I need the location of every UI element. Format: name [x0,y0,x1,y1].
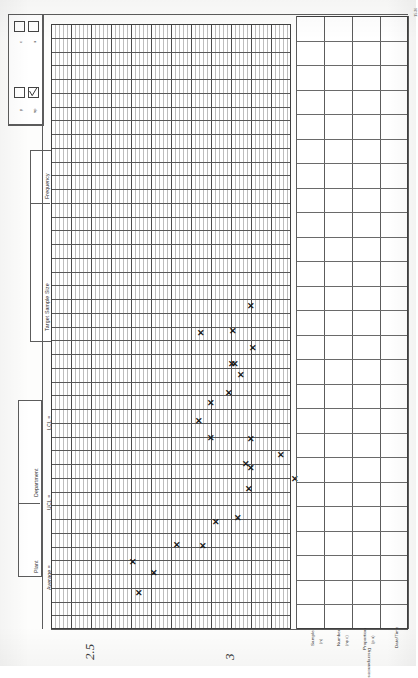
grid-hline [51,285,291,286]
grid-hline [51,230,291,231]
table-col-divider [408,16,409,629]
data-point-marker [206,399,215,408]
data-point-marker [211,518,220,527]
table-row-divider [296,65,408,66]
data-point-marker [128,558,137,567]
checkbox-label-p: p [18,109,23,111]
grid-hline [51,602,291,603]
grid-hline [51,505,291,506]
data-point-marker [172,541,181,550]
grid-hline [51,93,291,94]
table-row-divider [296,261,408,262]
data-point-marker [194,417,203,426]
grid-hline [51,162,291,163]
table-row-divider [296,482,408,483]
data-point-marker [224,389,233,398]
table-row-divider [296,114,408,115]
row-group-label-discrepancies: Discrepancies [367,648,372,678]
grid-hline [51,450,291,451]
checkbox-u[interactable] [28,21,39,32]
grid-hline [51,464,291,465]
data-point-marker [149,569,158,578]
grid-hline [51,120,291,121]
grid-hline [51,615,291,616]
grid-hline [51,368,291,369]
table-row-divider [296,16,408,17]
data-point-marker [206,434,215,443]
checkbox-np[interactable] [28,87,39,98]
grid-hline [51,299,291,300]
label-department: Department [33,468,39,497]
data-point-marker [230,360,239,369]
row-header-sample: Sample [310,630,315,646]
label-frequency: Frequency [44,173,50,199]
grid-hline [51,382,291,383]
data-point-marker [228,327,237,336]
table-row-divider [296,384,408,385]
grid-hline [51,189,291,190]
table-row-divider [296,90,408,91]
grid-hline [51,560,291,561]
handwritten-annotation-1: 2.5 [82,644,98,660]
table-col-divider [324,16,325,629]
table-row-divider [296,580,408,581]
grid-hline [51,107,291,108]
table-col-divider [380,16,381,629]
table-row-divider [296,188,408,189]
data-point-marker [134,589,143,598]
grid-hline [51,574,291,575]
table-row-divider [296,359,408,360]
data-table [296,16,408,629]
rule-line [8,14,9,124]
row-header-sample-sub: (n) [318,639,323,644]
table-row-divider [296,408,408,409]
grid-hline [51,38,291,39]
rule-line [296,16,297,629]
grid-hline [51,478,291,479]
data-point-marker [290,475,299,484]
data-point-marker [198,542,207,551]
grid-hline [51,409,291,410]
checkbox-label-c: c [18,41,23,43]
grid-hline [51,258,291,259]
table-row-divider [296,310,408,311]
label-target-sample-size: Target Sample Size [44,283,50,331]
grid-hline [51,134,291,135]
table-row-divider [296,212,408,213]
checkbox-p[interactable] [14,87,25,98]
label-plant: Plant [33,560,39,573]
data-point-marker [236,371,245,380]
rule-line [8,124,42,125]
chart-type-selector: c u p np [8,14,44,126]
grid-hline [51,79,291,80]
table-row-divider [296,457,408,458]
data-point-marker [276,451,285,460]
handwritten-annotation-2: 3 [222,654,238,661]
grid-hline [51,217,291,218]
grid-hline [51,148,291,149]
grid-hline [51,519,291,520]
table-row-divider [296,335,408,336]
rule-line [8,14,408,15]
grid-hline [51,437,291,438]
checkbox-c[interactable] [14,21,25,32]
rule-line [42,14,43,629]
header-fields-plant-department: Department Plant [18,400,42,577]
grid-hline [51,340,291,341]
form-code: 15-36 [414,8,418,17]
data-point-marker [246,435,255,444]
grid-hline [51,588,291,589]
table-row-divider [296,604,408,605]
grid-hline [51,272,291,273]
grid-hline [51,52,291,53]
table-row-divider [296,433,408,434]
grid-hline [51,24,291,25]
rule-line [51,629,408,630]
grid-hline [51,175,291,176]
data-point-marker [246,302,255,311]
grid-hline [51,65,291,66]
table-col-divider [352,16,353,629]
grid-hline [51,244,291,245]
row-header-proportion: Proportion [362,628,367,650]
